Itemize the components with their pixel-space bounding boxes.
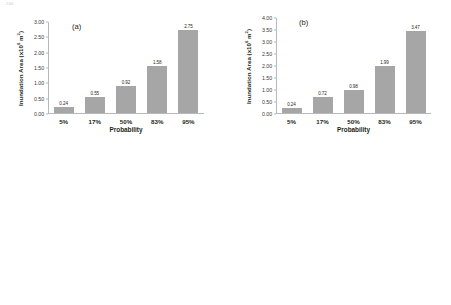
bar-slot: 0.72	[307, 18, 338, 114]
bar-value-label: 1.99	[380, 60, 389, 65]
bar-slot: 1.99	[369, 18, 400, 114]
plot-area-a: 0.000.501.001.502.002.503.00 0.240.550.9…	[48, 22, 204, 114]
bar-series-b: 0.240.720.981.993.47	[276, 18, 431, 114]
chart-a: 0.000.501.001.502.002.503.00 0.240.550.9…	[48, 22, 204, 114]
panel-d: (d) 0.0010.0020.0030.0040.0050.0060.0070…	[226, 155, 451, 305]
bar-slot: 0.24	[48, 22, 79, 114]
bar	[178, 30, 198, 114]
x-tick-label: 83%	[369, 118, 400, 125]
bar-value-label: 0.24	[59, 101, 68, 106]
bar-series-a: 0.240.550.921.582.75	[48, 22, 204, 114]
x-axis-title-b: Probability	[276, 126, 431, 133]
bar-value-label: 0.98	[349, 84, 358, 89]
x-tick-label: 83%	[142, 118, 173, 125]
x-tick-label: 50%	[110, 118, 141, 125]
bar-slot: 0.98	[338, 18, 369, 114]
chart-b: 0.000.501.001.502.002.503.003.504.00 0.2…	[276, 18, 431, 114]
bar-slot: 1.58	[142, 22, 173, 114]
figure-panel-grid: (a) 0.000.501.001.502.002.503.00 0.240.5…	[0, 0, 451, 305]
plot-area-b: 0.000.501.001.502.002.503.003.504.00 0.2…	[276, 18, 431, 114]
x-tick-label: 95%	[400, 118, 431, 125]
x-tick-label: 5%	[276, 118, 307, 125]
bar-value-label: 0.55	[91, 91, 100, 96]
bar-slot: 0.92	[110, 22, 141, 114]
x-tick-label: 5%	[48, 118, 79, 125]
bar-value-label: 3.47	[411, 25, 420, 30]
bar	[375, 66, 395, 114]
bar	[147, 66, 167, 114]
bar	[406, 31, 426, 114]
x-tick-label: 95%	[173, 118, 204, 125]
x-tick-label: 50%	[338, 118, 369, 125]
x-axis-labels-b: 5%17%50%83%95%	[276, 114, 431, 125]
bar	[116, 86, 136, 114]
bar-value-label: 2.75	[184, 24, 193, 29]
x-tick-label: 17%	[307, 118, 338, 125]
bar-slot: 0.55	[79, 22, 110, 114]
panel-a: (a) 0.000.501.001.502.002.503.00 0.240.5…	[0, 0, 226, 155]
bar-value-label: 1.58	[153, 60, 162, 65]
x-axis-title-a: Probability	[48, 126, 204, 133]
bar	[344, 90, 364, 114]
bar-value-label: 0.92	[122, 80, 131, 85]
x-tick-label: 17%	[79, 118, 110, 125]
bar-slot: 2.75	[173, 22, 204, 114]
bar	[85, 97, 105, 114]
panel-b: (b) 0.000.501.001.502.002.503.003.504.00…	[226, 0, 451, 155]
y-axis-title-b: Inundation Area (x106 m2)	[244, 29, 252, 104]
bar-value-label: 0.24	[287, 102, 296, 107]
y-axis-line-a	[48, 22, 49, 114]
y-axis-title-a: Inundation Area (x106 m2)	[16, 31, 24, 106]
bar-value-label: 0.72	[318, 91, 327, 96]
panel-c: (c) 0.0010.0020.0030.0040.0050.0060.00 0…	[0, 155, 226, 305]
bar-slot: 3.47	[400, 18, 431, 114]
x-axis-labels-a: 5%17%50%83%95%	[48, 114, 204, 125]
bar-slot: 0.24	[276, 18, 307, 114]
y-axis-line-b	[276, 18, 277, 114]
bar	[313, 97, 333, 114]
